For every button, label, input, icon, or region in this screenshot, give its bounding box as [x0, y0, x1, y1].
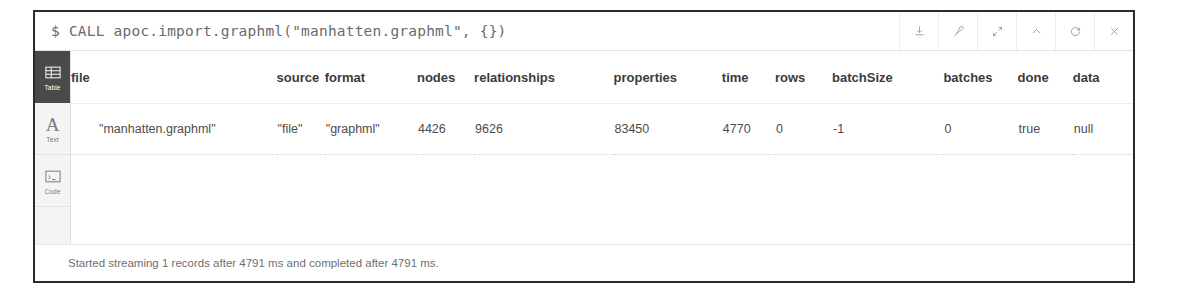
- sidebar-item-code[interactable]: Code: [35, 155, 70, 207]
- refresh-button[interactable]: [1055, 12, 1094, 50]
- expand-button[interactable]: [977, 12, 1016, 50]
- prompt-symbol: $: [51, 23, 60, 39]
- download-button[interactable]: [899, 12, 938, 50]
- frame-body: Table A Text Code: [35, 51, 1133, 244]
- sidebar-item-text-label: Text: [46, 136, 58, 143]
- column-header-source[interactable]: source: [277, 51, 325, 104]
- column-header-relationships[interactable]: relationships: [474, 51, 613, 104]
- download-icon: [913, 25, 926, 38]
- cell-format: "graphml": [325, 104, 417, 155]
- pin-button[interactable]: [938, 12, 977, 50]
- sidebar-item-table-label: Table: [44, 84, 60, 91]
- query-text: CALL apoc.import.graphml("manhatten.grap…: [69, 23, 507, 39]
- cell-batchsize: -1: [832, 104, 943, 155]
- column-header-format[interactable]: format: [325, 51, 417, 104]
- status-message: Started streaming 1 records after 4791 m…: [68, 257, 439, 269]
- result-table-area: file source format nodes relationships p…: [71, 51, 1133, 244]
- frame-footer: Started streaming 1 records after 4791 m…: [35, 244, 1133, 281]
- column-header-done[interactable]: done: [1018, 51, 1073, 104]
- column-header-nodes[interactable]: nodes: [417, 51, 474, 104]
- cell-relationships: 9626: [474, 104, 613, 155]
- code-icon: [45, 166, 61, 186]
- cell-file: "manhatten.graphml": [71, 104, 277, 155]
- result-table: file source format nodes relationships p…: [71, 51, 1133, 155]
- result-frame: $ CALL apoc.import.graphml("manhatten.gr…: [33, 10, 1135, 283]
- text-icon: A: [46, 114, 60, 134]
- column-header-data[interactable]: data: [1073, 51, 1133, 104]
- collapse-button[interactable]: [1016, 12, 1055, 50]
- cell-rows: 0: [775, 104, 832, 155]
- expand-icon: [991, 25, 1004, 38]
- table-row[interactable]: "manhatten.graphml" "file" "graphml" 442…: [71, 104, 1133, 155]
- column-header-batches[interactable]: batches: [943, 51, 1017, 104]
- result-table-body: "manhatten.graphml" "file" "graphml" 442…: [71, 104, 1133, 155]
- cell-done: true: [1018, 104, 1073, 155]
- close-icon: [1108, 25, 1121, 38]
- column-header-batchsize[interactable]: batchSize: [832, 51, 943, 104]
- chevron-up-icon: [1030, 25, 1043, 38]
- cell-nodes: 4426: [417, 104, 474, 155]
- cell-batches: 0: [943, 104, 1017, 155]
- pin-icon: [952, 25, 965, 38]
- view-switcher-sidebar: Table A Text Code: [35, 51, 71, 244]
- close-button[interactable]: [1094, 12, 1133, 50]
- query-display[interactable]: $ CALL apoc.import.graphml("manhatten.gr…: [35, 12, 899, 50]
- sidebar-item-table[interactable]: Table: [35, 51, 70, 103]
- result-table-head: file source format nodes relationships p…: [71, 51, 1133, 104]
- cell-source: "file": [277, 104, 325, 155]
- frame-header: $ CALL apoc.import.graphml("manhatten.gr…: [35, 12, 1133, 51]
- refresh-icon: [1069, 25, 1082, 38]
- column-header-time[interactable]: time: [722, 51, 775, 104]
- header-actions: [899, 12, 1133, 50]
- screenshot-root: $ CALL apoc.import.graphml("manhatten.gr…: [0, 0, 1177, 303]
- sidebar-item-code-label: Code: [45, 188, 61, 195]
- table-icon: [45, 62, 61, 82]
- column-header-file[interactable]: file: [71, 51, 277, 104]
- cell-data: null: [1073, 104, 1133, 155]
- column-header-rows[interactable]: rows: [775, 51, 832, 104]
- column-header-properties[interactable]: properties: [614, 51, 722, 104]
- cell-time: 4770: [722, 104, 775, 155]
- sidebar-item-text[interactable]: A Text: [35, 103, 70, 155]
- cell-properties: 83450: [614, 104, 722, 155]
- table-header-row: file source format nodes relationships p…: [71, 51, 1133, 104]
